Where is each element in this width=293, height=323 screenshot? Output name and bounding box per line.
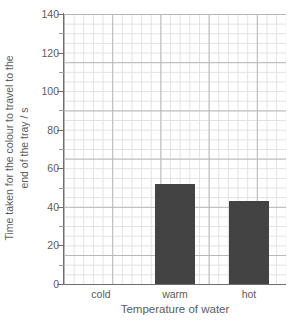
y-tick-label: 40 xyxy=(33,201,59,213)
y-tick-label: 80 xyxy=(33,124,59,136)
y-tick-label: 60 xyxy=(33,162,59,174)
y-axis-title-line-2: end of the tray / s xyxy=(17,55,32,240)
bar-warm xyxy=(155,184,195,284)
x-tick-label-cold: cold xyxy=(91,288,110,300)
x-axis-line xyxy=(63,284,286,285)
x-tick-label-warm: warm xyxy=(162,288,188,300)
y-tick-mark-major xyxy=(57,91,64,92)
y-axis-title: Time taken for the colour to travel to t… xyxy=(0,0,34,295)
y-axis-tick-labels: 020406080100120140 xyxy=(33,0,59,323)
bar-hot xyxy=(229,201,269,284)
y-tick-label: 20 xyxy=(33,239,59,251)
y-tick-mark-major xyxy=(57,14,64,15)
y-tick-label: 100 xyxy=(33,85,59,97)
y-axis-title-line-1: Time taken for the colour to travel to t… xyxy=(2,55,17,240)
y-tick-mark-major xyxy=(57,245,64,246)
y-tick-mark-major xyxy=(57,284,64,285)
y-tick-mark-major xyxy=(57,168,64,169)
y-tick-mark-major xyxy=(57,130,64,131)
y-tick-label: 0 xyxy=(33,278,59,290)
x-axis-title: Temperature of water xyxy=(64,303,286,315)
y-tick-mark-major xyxy=(57,53,64,54)
y-tick-label: 120 xyxy=(33,47,59,59)
y-tick-label: 140 xyxy=(33,8,59,20)
bar-chart: Time taken for the colour to travel to t… xyxy=(0,0,293,323)
y-tick-mark-major xyxy=(57,207,64,208)
plot-area xyxy=(64,14,286,284)
x-tick-label-hot: hot xyxy=(242,288,257,300)
